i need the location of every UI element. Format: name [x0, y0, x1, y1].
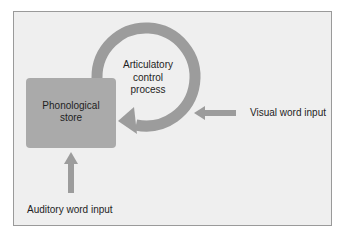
loop-arrowhead-icon [118, 107, 137, 134]
visual-word-input-label: Visual word input [250, 107, 326, 119]
visual-input-arrow [194, 106, 236, 120]
articulatory-control-line1: Articulatory [113, 59, 183, 72]
articulatory-control-label: Articulatory control process [113, 59, 183, 97]
articulatory-control-line3: process [113, 84, 183, 97]
articulatory-control-line2: control [113, 72, 183, 85]
phonological-store-label: Phonological store [26, 100, 116, 124]
phonological-store-line2: store [26, 112, 116, 124]
visual-arrow-shaft [203, 110, 236, 116]
auditory-word-input-label: Auditory word input [27, 204, 113, 216]
auditory-input-arrow [64, 152, 78, 193]
phonological-store-line1: Phonological [26, 100, 116, 112]
auditory-arrow-shaft [68, 162, 74, 193]
auditory-arrowhead-icon [64, 152, 78, 164]
visual-arrowhead-icon [194, 106, 205, 120]
